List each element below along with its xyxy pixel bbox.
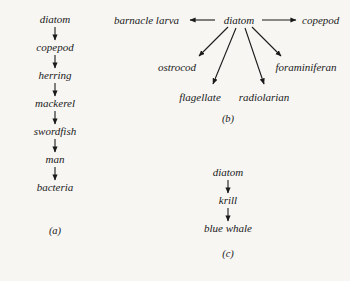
- panel-caption-c: (c): [222, 248, 234, 260]
- node-radiolarian-b: radiolarian: [239, 91, 290, 103]
- node-diatom-a: diatom: [40, 13, 71, 25]
- node-mackerel-a: mackerel: [35, 97, 75, 109]
- node-krill-c: krill: [219, 194, 237, 206]
- node-blue-whale-c: blue whale: [204, 222, 252, 234]
- node-copepod-b: copepod: [302, 14, 339, 26]
- panel-caption-a: (a): [49, 225, 61, 237]
- node-diatom-c: diatom: [213, 166, 244, 178]
- node-copepod-a: copepod: [36, 41, 73, 53]
- node-foraminiferan-b: foraminiferan: [275, 61, 336, 73]
- food-web-figure: diatom copepod herring mackerel swordfis…: [0, 0, 350, 281]
- node-man-a: man: [46, 153, 65, 165]
- node-herring-a: herring: [39, 69, 72, 81]
- node-ostrocod-b: ostrocod: [158, 61, 196, 73]
- panel-b-arrows: [190, 20, 296, 84]
- node-flagellate-b: flagellate: [179, 91, 221, 103]
- node-barnacle-larva-b: barnacle larva: [114, 14, 179, 26]
- node-diatom-b: diatom: [224, 14, 255, 26]
- node-swordfish-a: swordfish: [34, 125, 76, 137]
- node-bacteria-a: bacteria: [37, 181, 74, 193]
- panel-caption-b: (b): [222, 113, 234, 125]
